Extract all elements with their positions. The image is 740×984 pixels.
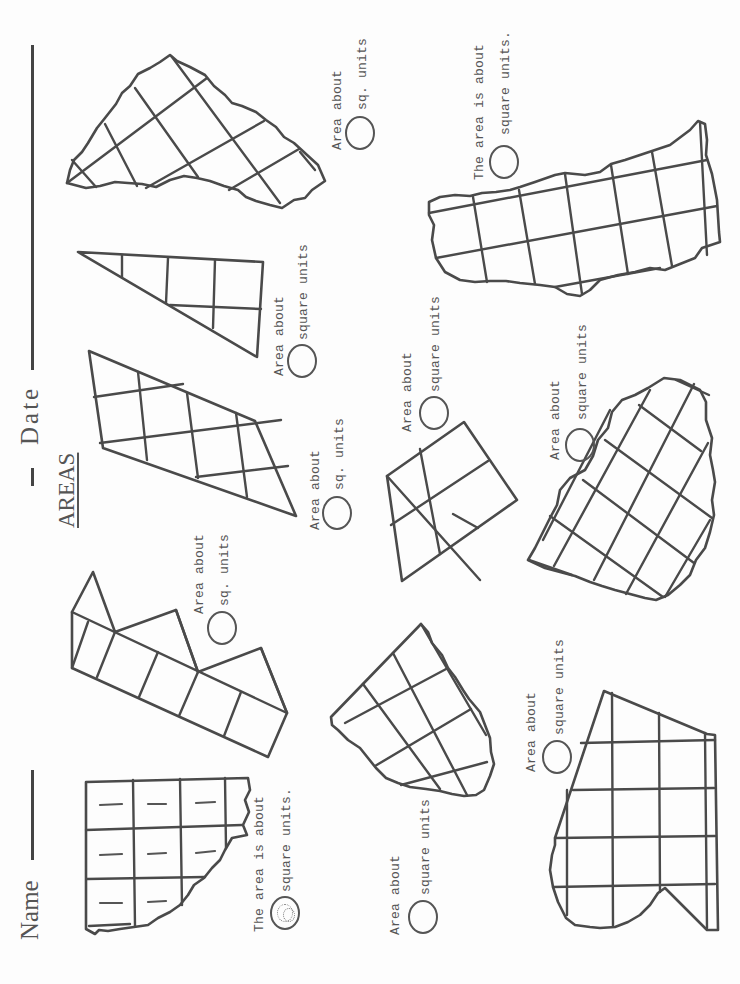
shape-3-parallelogram (89, 351, 296, 516)
shape-5-torn-triangle (67, 55, 325, 208)
q10-answer-circle[interactable] (542, 740, 572, 774)
q7-line2: square units (428, 296, 443, 392)
q4-line1: Area about (272, 296, 287, 376)
q1-answer-circle[interactable] (270, 896, 300, 930)
q8-answer-circle[interactable] (489, 145, 519, 179)
q9-answer-circle[interactable] (565, 428, 595, 462)
q1-answer-eight-bottom (283, 908, 295, 922)
q4-answer-circle[interactable] (287, 344, 317, 378)
shape-6-torn-diamond (331, 624, 494, 796)
q6-line2: square units (418, 799, 433, 895)
shape-2-squares-triangles (72, 572, 287, 757)
q7-line1: Area about (400, 352, 415, 432)
worksheet-page: Name Date AREAS (0, 0, 740, 984)
q3-answer-circle[interactable] (322, 496, 352, 530)
shape-4-triangle (78, 252, 263, 357)
shape-7-trapezoid (387, 422, 517, 581)
q5-answer-circle[interactable] (345, 116, 375, 150)
q4-line2: square units (296, 244, 311, 340)
q10-line1: Area about (524, 692, 539, 772)
q9-line1: Area about (548, 380, 563, 460)
q2-line1: Area about (192, 534, 207, 614)
q1-line2: square units. (279, 788, 294, 892)
shapes-canvas (0, 0, 740, 984)
q6-answer-circle[interactable] (408, 900, 438, 934)
q1-line1: The area is about (252, 796, 267, 932)
q2-line2: sq. units (217, 534, 232, 606)
q5-line2: sq. units (355, 38, 370, 110)
q9-line2: square units (575, 324, 590, 420)
q3-line1: Area about (308, 450, 323, 530)
q2-answer-circle[interactable] (207, 611, 237, 645)
q7-answer-circle[interactable] (419, 396, 449, 430)
q3-line2: sq. units (332, 418, 347, 490)
shape-1-torn-grid (86, 778, 250, 934)
q5-line1: Area about (330, 70, 345, 150)
shape-10-irregular-polygon (550, 691, 718, 930)
q8-line2: square units. (498, 31, 513, 135)
q8-line1: The area is about (472, 44, 487, 180)
q10-line2: square units (552, 639, 567, 735)
q6-line1: Area about (388, 855, 403, 935)
